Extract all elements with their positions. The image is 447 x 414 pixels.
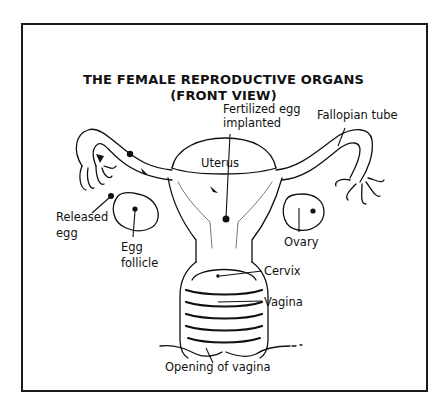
label-opening-of-vagina: Opening of vagina (165, 360, 271, 374)
cervix (192, 270, 256, 281)
arrow-down-icon (210, 186, 218, 193)
right-follicle-dot (310, 208, 315, 213)
label-cervix: Cervix (264, 264, 301, 278)
reproductive-organs-illustration (0, 0, 447, 414)
cervix-dot (216, 274, 220, 278)
label-released-egg-line2: egg (56, 226, 78, 240)
label-fallopian-tube: Fallopian tube (317, 108, 398, 122)
arrow-up-icon (96, 154, 104, 163)
label-uterus: Uterus (201, 156, 239, 170)
left-ovary (113, 193, 158, 231)
label-ovary: Ovary (284, 235, 318, 249)
label-egg-follicle-line2: follicle (121, 256, 158, 270)
label-egg-follicle-line1: Egg (121, 240, 143, 254)
label-fertilized-egg-line2: implanted (223, 116, 281, 130)
right-fallopian-tube (276, 130, 372, 182)
egg-follicle-dot (132, 206, 137, 211)
label-fertilized-egg-line1: Fertilized egg (223, 102, 301, 116)
label-vagina: Vagina (264, 295, 303, 309)
right-ovary (283, 194, 324, 230)
arrow-right-icon (141, 168, 148, 175)
label-released-egg-line1: Released (56, 210, 108, 224)
egg-in-tube-dot (127, 151, 133, 157)
